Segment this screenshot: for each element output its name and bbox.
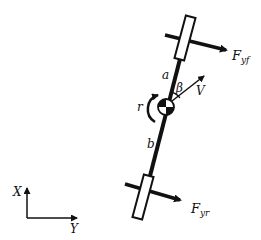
rear-wheel xyxy=(132,174,153,219)
slip-angle-label: β xyxy=(175,81,183,95)
axis-x-label: X xyxy=(12,185,22,199)
distance-b-label: b xyxy=(147,137,155,151)
yaw-rate-label: r xyxy=(137,100,144,114)
rear-force-arrow xyxy=(125,184,180,200)
yaw-rate-arc xyxy=(148,95,158,122)
center-of-gravity-icon xyxy=(158,99,174,115)
distance-a-label: a xyxy=(162,68,169,82)
velocity-label: V xyxy=(196,84,206,98)
bicycle-model-diagram: Fyf Fyr a b β V r X Y xyxy=(0,0,261,240)
front-force-arrow xyxy=(165,35,226,50)
rear-force-label: Fyr xyxy=(190,201,210,218)
front-force-label: Fyf xyxy=(231,48,251,65)
axis-y-label: Y xyxy=(70,222,79,236)
